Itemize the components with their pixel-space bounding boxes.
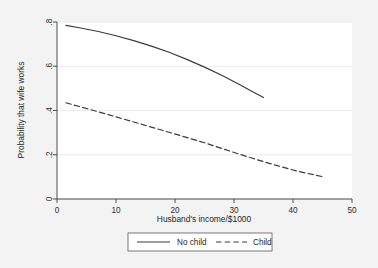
y-tick-label: .6 <box>45 62 54 69</box>
y-tick-label: 0 <box>45 196 54 201</box>
y-tick-label: .2 <box>45 151 54 158</box>
legend-label-child: Child <box>253 238 272 247</box>
x-tick-label: 40 <box>288 206 298 215</box>
x-tick-label: 50 <box>347 206 357 215</box>
x-tick-label: 0 <box>55 206 60 215</box>
chart-canvas: 0.2.4.6.8 01020304050 Probability that w… <box>8 8 370 260</box>
x-axis-ticks <box>57 199 352 203</box>
chart-legend: No child Child <box>128 233 272 251</box>
chart-figure: 0.2.4.6.8 01020304050 Probability that w… <box>0 0 378 268</box>
y-axis-tick-labels: 0.2.4.6.8 <box>45 18 54 201</box>
y-tick-label: .8 <box>45 18 54 25</box>
legend-label-no-child: No child <box>177 238 207 247</box>
x-tick-label: 10 <box>111 206 121 215</box>
y-axis-title: Probability that wife works <box>16 62 26 159</box>
line-chart: 0.2.4.6.8 01020304050 Probability that w… <box>8 8 370 260</box>
y-tick-label: .4 <box>45 107 54 114</box>
x-axis-title: Husband's income/$1000 <box>157 214 252 224</box>
